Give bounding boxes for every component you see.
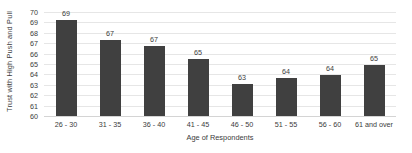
bar-slot: 65 <box>176 12 220 116</box>
bar-value-label: 65 <box>194 48 202 57</box>
bar <box>144 46 165 116</box>
y-axis-tick-label: 70 <box>30 8 38 17</box>
y-axis-tick-label: 68 <box>30 28 38 37</box>
bar-value-label: 63 <box>238 73 246 82</box>
y-axis-title: Trust with High Push and Pull <box>0 0 18 122</box>
y-axis-tick-label: 65 <box>30 60 38 69</box>
gridline <box>44 116 396 117</box>
x-axis-tick-label: 36 - 40 <box>132 120 176 129</box>
bar-slot: 64 <box>264 12 308 116</box>
x-axis-title: Age of Respondents <box>44 133 396 142</box>
plot-area: 6967676563646465 <box>44 12 396 116</box>
y-axis-tick-label: 61 <box>30 101 38 110</box>
bar-value-label: 64 <box>282 67 290 76</box>
y-axis-tick-labels: 7069686766656463626160 <box>18 12 40 116</box>
y-axis-title-text: Trust with High Push and Pull <box>5 11 14 112</box>
y-axis-tick-label: 64 <box>30 70 38 79</box>
bar-slot: 67 <box>132 12 176 116</box>
y-axis-tick-label: 67 <box>30 39 38 48</box>
y-axis-tick-label: 62 <box>30 91 38 100</box>
bar <box>56 20 77 116</box>
y-axis-tick-label: 66 <box>30 49 38 58</box>
bar <box>100 40 121 116</box>
bar-slot: 69 <box>44 12 88 116</box>
bar-value-label: 65 <box>370 54 378 63</box>
x-axis-tick-label: 46 - 50 <box>220 120 264 129</box>
bar-value-label: 64 <box>326 64 334 73</box>
x-axis-tick-label: 56 - 60 <box>308 120 352 129</box>
bar-slot: 65 <box>352 12 396 116</box>
bar <box>232 84 253 116</box>
y-axis-tick-label: 63 <box>30 80 38 89</box>
x-axis-tick-labels: 26 - 3031 - 3536 - 4041 - 4546 - 5051 - … <box>44 120 396 129</box>
y-axis-tick-label: 69 <box>30 18 38 27</box>
bars-layer: 6967676563646465 <box>44 12 396 116</box>
bar-value-label: 67 <box>106 29 114 38</box>
bar-slot: 64 <box>308 12 352 116</box>
x-axis-tick-label: 31 - 35 <box>88 120 132 129</box>
bar-value-label: 67 <box>150 35 158 44</box>
bar-chart: Trust with High Push and Pull 7069686766… <box>0 0 412 153</box>
x-axis-tick-label: 51 - 55 <box>264 120 308 129</box>
bar-value-label: 69 <box>62 9 70 18</box>
bar <box>320 75 341 116</box>
bar <box>188 59 209 116</box>
bar-slot: 67 <box>88 12 132 116</box>
bar <box>276 78 297 116</box>
x-axis-tick-label: 61 and over <box>352 120 396 129</box>
x-axis-tick-label: 41 - 45 <box>176 120 220 129</box>
bar <box>364 65 385 116</box>
x-axis-tick-label: 26 - 30 <box>44 120 88 129</box>
y-axis-tick-label: 60 <box>30 112 38 121</box>
bar-slot: 63 <box>220 12 264 116</box>
